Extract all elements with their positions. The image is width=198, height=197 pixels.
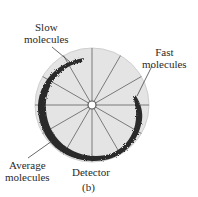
average-leader-line: [28, 141, 52, 158]
figure-caption: (b): [82, 181, 95, 193]
center-hole: [88, 101, 96, 109]
label-slow-molecules: Slow molecules: [24, 21, 69, 45]
label-fast-molecules: Fast molecules: [142, 46, 187, 70]
label-detector: Detector: [72, 166, 110, 178]
label-average-molecules: Average molecules: [5, 159, 50, 183]
